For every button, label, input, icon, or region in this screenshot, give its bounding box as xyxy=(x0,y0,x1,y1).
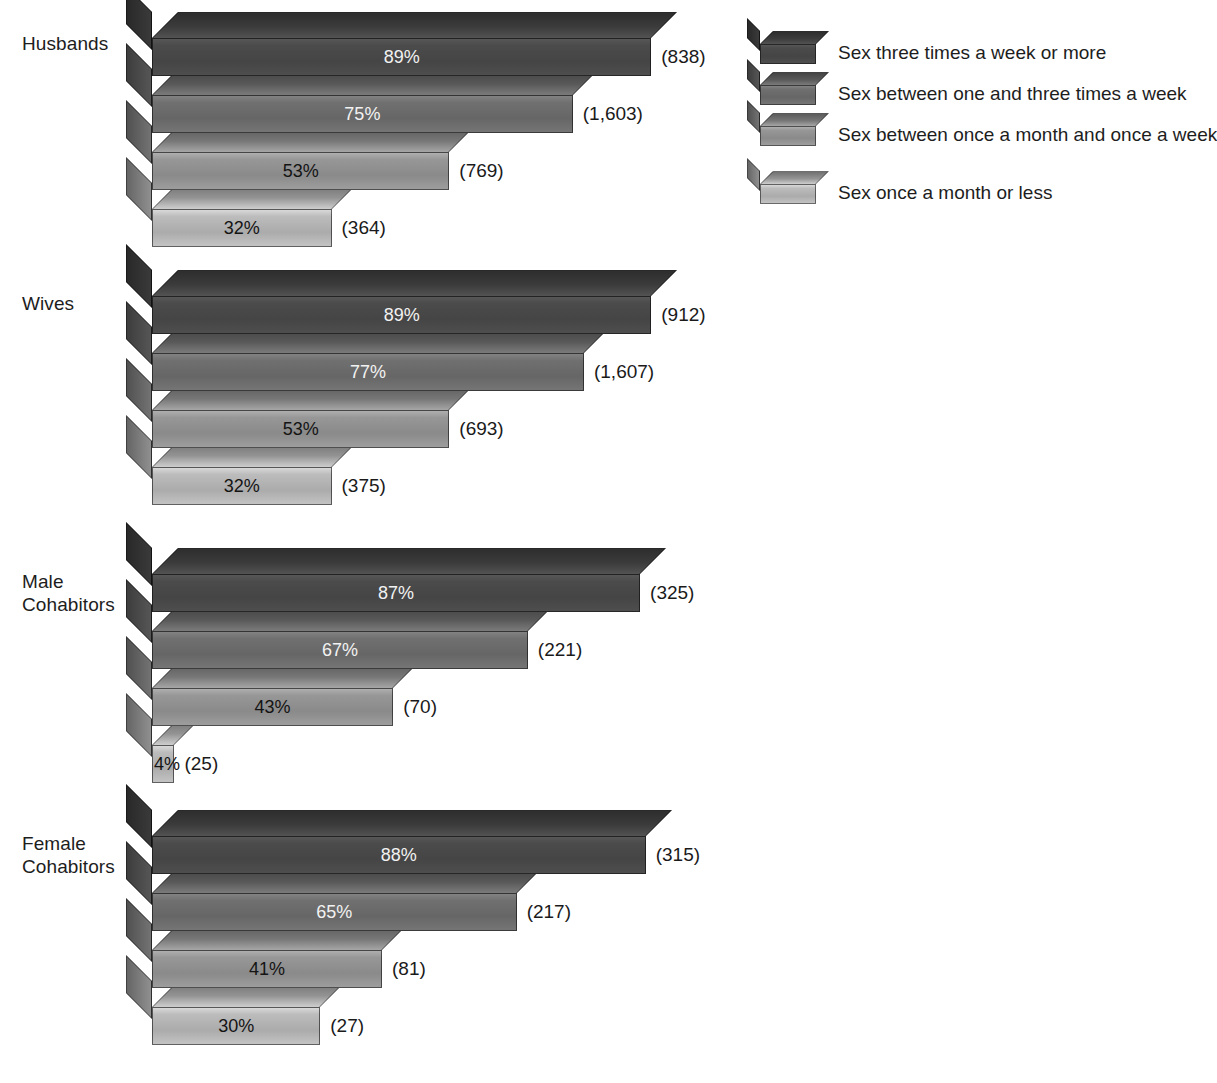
bar: 89%(912) xyxy=(152,296,651,334)
legend-swatch-front xyxy=(760,85,816,105)
bar-front-face xyxy=(152,467,332,505)
bar-front-face xyxy=(152,152,449,190)
bar-side-face xyxy=(126,636,152,700)
bar-count-label: (838) xyxy=(661,38,705,76)
group-label: Wives xyxy=(22,292,74,315)
bar-count-label: (315) xyxy=(656,836,700,874)
bar-side-face xyxy=(126,301,152,365)
bar-top-face xyxy=(152,810,672,836)
bar-side-face xyxy=(126,579,152,643)
bar-side-face xyxy=(126,693,152,757)
legend-swatch-icon xyxy=(760,126,816,146)
bar-count-label: (81) xyxy=(392,950,426,988)
bar-front-face xyxy=(152,95,573,133)
bar-top-face xyxy=(152,270,677,296)
bar-count-label: (1,603) xyxy=(583,95,643,133)
bar-side-face xyxy=(126,43,152,107)
bar-count-label: (221) xyxy=(538,631,582,669)
bar-count-label: (70) xyxy=(403,688,437,726)
bar-count-label: (693) xyxy=(459,410,503,448)
bar-side-face xyxy=(126,244,152,308)
bar-count-label: (769) xyxy=(459,152,503,190)
bar-side-face xyxy=(126,415,152,479)
group-label: Male Cohabitors xyxy=(22,570,115,616)
legend-swatch-icon xyxy=(760,184,816,204)
bar-front-face xyxy=(152,38,651,76)
bar-top-face xyxy=(152,548,666,574)
legend-swatch-top xyxy=(760,113,829,126)
bar: 30%(27) xyxy=(152,1007,320,1045)
bar-side-face xyxy=(126,955,152,1019)
bar: 87%(325) xyxy=(152,574,640,612)
legend-label: Sex three times a week or more xyxy=(838,36,1106,70)
bar: 65%(217) xyxy=(152,893,517,931)
legend-swatch-icon xyxy=(760,85,816,105)
bar: 67%(221) xyxy=(152,631,528,669)
bar: 88%(315) xyxy=(152,836,646,874)
bar-front-face xyxy=(152,574,640,612)
bar: 77%(1,607) xyxy=(152,353,584,391)
bar-side-face xyxy=(126,358,152,422)
bar-front-face xyxy=(152,688,393,726)
legend-swatch-icon xyxy=(760,44,816,64)
bar-front-face xyxy=(152,893,517,931)
group-label: Husbands xyxy=(22,32,108,55)
bar-top-face xyxy=(152,12,677,38)
legend-label: Sex once a month or less xyxy=(838,176,1052,210)
legend-swatch-side xyxy=(747,18,760,51)
bar: 75%(1,603) xyxy=(152,95,573,133)
bar-front-face xyxy=(152,1007,320,1045)
bar-front-face xyxy=(152,410,449,448)
bar-count-label: (1,607) xyxy=(594,353,654,391)
bar-count-label: (25) xyxy=(184,745,218,783)
legend-swatch-top xyxy=(760,72,829,85)
bar-front-face xyxy=(152,209,332,247)
legend-swatch-side xyxy=(747,158,760,191)
bar-side-face xyxy=(126,841,152,905)
bar: 89%(838) xyxy=(152,38,651,76)
legend-label: Sex between one and three times a week xyxy=(838,77,1187,111)
legend-swatch-front xyxy=(760,126,816,146)
bar-front-face xyxy=(152,836,646,874)
bar-count-label: (364) xyxy=(342,209,386,247)
bar-front-face xyxy=(152,631,528,669)
group-label: Female Cohabitors xyxy=(22,832,115,878)
legend-swatch-front xyxy=(760,184,816,204)
bar: 41%(81) xyxy=(152,950,382,988)
bar-front-face xyxy=(152,296,651,334)
bar: 32%(364) xyxy=(152,209,332,247)
legend-label: Sex between once a month and once a week xyxy=(838,118,1217,152)
legend-swatch-top xyxy=(760,171,829,184)
bar-count-label: (325) xyxy=(650,574,694,612)
bar-count-label: (217) xyxy=(527,893,571,931)
bar-count-label: (375) xyxy=(342,467,386,505)
bar-side-face xyxy=(126,522,152,586)
bar-front-face xyxy=(152,353,584,391)
bar: 4%(25) xyxy=(152,745,174,783)
legend-swatch-side xyxy=(747,59,760,92)
bar-side-face xyxy=(126,0,152,50)
bar-side-face xyxy=(126,898,152,962)
bar: 32%(375) xyxy=(152,467,332,505)
bar: 43%(70) xyxy=(152,688,393,726)
legend-swatch-top xyxy=(760,31,829,44)
bar-side-face xyxy=(126,784,152,848)
bar-count-label: (27) xyxy=(330,1007,364,1045)
bar-count-label: (912) xyxy=(661,296,705,334)
bar-side-face xyxy=(126,100,152,164)
bar: 53%(769) xyxy=(152,152,449,190)
bar-side-face xyxy=(126,157,152,221)
legend-swatch-front xyxy=(760,44,816,64)
bar-front-face xyxy=(152,950,382,988)
legend-swatch-side xyxy=(747,100,760,133)
bar: 53%(693) xyxy=(152,410,449,448)
bar-front-face xyxy=(152,745,174,783)
